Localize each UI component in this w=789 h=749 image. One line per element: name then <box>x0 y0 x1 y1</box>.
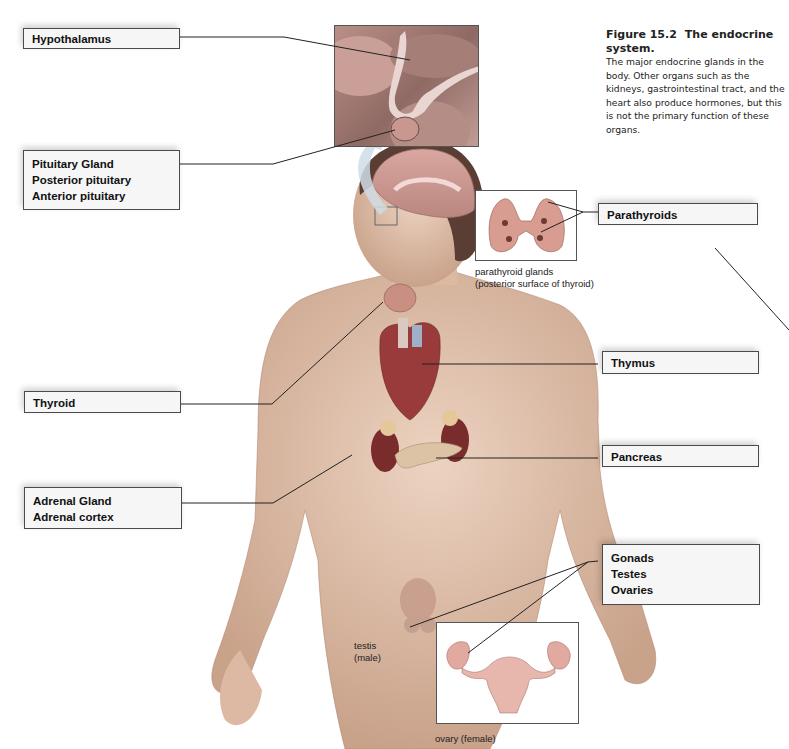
label-thymus-text: Thymus <box>611 355 750 371</box>
label-ovaries: Ovaries <box>611 582 751 598</box>
label-pancreas-text: Pancreas <box>611 449 750 465</box>
label-gonads: Gonads Testes Ovaries <box>602 544 760 605</box>
testis-caption-line2: (male) <box>354 652 381 664</box>
label-adrenal-gland: Adrenal Gland <box>33 493 173 509</box>
hypothalamus-leader <box>180 37 410 60</box>
label-thyroid-text: Thyroid <box>33 395 172 411</box>
parathyroid-leader-1 <box>548 202 598 212</box>
parathyroid-caption-line1: parathyroid glands <box>475 266 594 278</box>
ovary-caption-text: ovary (female) <box>435 733 496 745</box>
label-testes: Testes <box>611 566 751 582</box>
parathyroid-caption-line2: (posterior surface of thyroid) <box>475 278 594 290</box>
label-thymus: Thymus <box>602 351 759 374</box>
figure-caption-text: The major endocrine glands in the body. … <box>606 55 789 136</box>
adrenal-leader <box>182 455 352 503</box>
testis-caption-line1: testis <box>354 640 381 652</box>
label-parathyroids: Parathyroids <box>598 203 758 225</box>
thyroid-leader <box>181 302 383 404</box>
label-pituitary-gland: Pituitary Gland <box>32 156 171 172</box>
label-hypothalamus-text: Hypothalamus <box>32 31 171 47</box>
label-pancreas: Pancreas <box>602 445 759 467</box>
label-thyroid: Thyroid <box>24 391 181 413</box>
label-gonads-text: Gonads <box>611 550 751 566</box>
stray-line <box>715 248 789 330</box>
label-adrenal: Adrenal Gland Adrenal cortex <box>24 487 182 529</box>
figure-heading: Figure 15.2The endocrine system. <box>606 28 789 55</box>
parathyroid-leader-2 <box>541 212 583 232</box>
pituitary-leader <box>180 130 395 164</box>
label-adrenal-cortex: Adrenal cortex <box>33 509 173 525</box>
ovary-caption: ovary (female) <box>435 733 496 745</box>
label-pituitary: Pituitary Gland Posterior pituitary Ante… <box>23 150 180 210</box>
gonads-leader-testis <box>410 561 598 627</box>
label-parathyroids-text: Parathyroids <box>607 207 749 223</box>
gonads-leader-ovary <box>468 562 588 653</box>
label-hypothalamus: Hypothalamus <box>23 28 180 49</box>
parathyroid-caption: parathyroid glands (posterior surface of… <box>475 266 594 290</box>
testis-caption: testis (male) <box>354 640 381 664</box>
figure-number: Figure 15.2 <box>606 28 677 41</box>
label-posterior-pituitary: Posterior pituitary <box>32 172 171 188</box>
figure-caption: Figure 15.2The endocrine system. The maj… <box>606 28 789 136</box>
label-anterior-pituitary: Anterior pituitary <box>32 188 171 204</box>
